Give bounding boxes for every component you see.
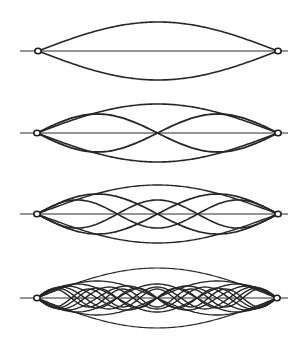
harmonic-1-envelope bbox=[37, 268, 277, 298]
panel-harmonics-1-2 bbox=[20, 104, 288, 162]
left-fixed-end-node bbox=[34, 211, 40, 217]
harmonic-1-envelope bbox=[38, 51, 278, 80]
standing-wave-diagram bbox=[0, 0, 306, 345]
panel-harmonics-1-3 bbox=[20, 185, 288, 243]
right-fixed-end-node bbox=[275, 211, 281, 217]
right-fixed-end-node bbox=[275, 48, 281, 54]
left-fixed-end-node bbox=[34, 130, 40, 136]
panel-harmonics-1-7 bbox=[20, 268, 288, 328]
right-fixed-end-node bbox=[274, 295, 280, 301]
harmonic-1-envelope bbox=[38, 22, 278, 51]
right-fixed-end-node bbox=[275, 130, 281, 136]
left-fixed-end-node bbox=[34, 295, 40, 301]
left-fixed-end-node bbox=[35, 48, 41, 54]
harmonic-1-envelope bbox=[37, 298, 277, 328]
panel-fundamental bbox=[20, 22, 288, 80]
